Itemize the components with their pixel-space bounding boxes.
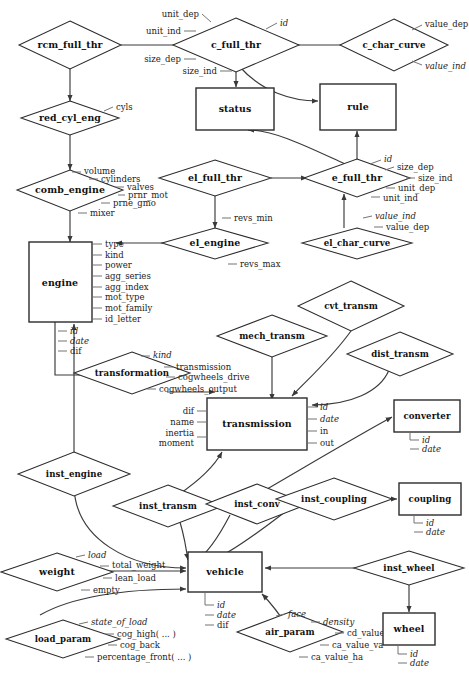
entity-label-rule: rule	[347, 101, 369, 112]
attr-mixer: mixer	[90, 208, 116, 218]
attr-in: in	[320, 426, 329, 436]
edge-efullthr-to-status	[248, 130, 345, 164]
attr-id-engine: id	[70, 326, 79, 336]
relationship-dist-transm[interactable]: dist_transm	[347, 332, 453, 376]
attr-value-dep: value_dep	[424, 19, 469, 30]
relationship-label-dist-transm: dist_transm	[371, 349, 429, 359]
attr-ca-value-va: ca_value_va	[332, 640, 383, 651]
relationship-label-red-cyl-eng: red_cyl_eng	[39, 112, 101, 123]
relationship-label-air-param: air_param	[265, 627, 314, 637]
attr-revs-min: revs_min	[234, 213, 273, 224]
relationship-label-rcm-full-thr: rcm_full_thr	[37, 39, 103, 50]
relationship-label-load-param: load_param	[35, 634, 92, 644]
attributes-vehicle: id date dif	[205, 593, 236, 630]
attr-unit-ind-e: unit_ind	[383, 193, 419, 204]
entity-rule[interactable]: rule	[320, 84, 396, 130]
entity-label-wheel: wheel	[393, 623, 425, 634]
attr-out: out	[320, 438, 335, 448]
attr-cogwheels-drive: cogwheels_drive	[178, 372, 250, 383]
attr-mot-type: mot_type	[105, 292, 145, 303]
attr-cd-value: cd_value	[347, 628, 385, 639]
attr-date-engine: date	[70, 336, 89, 346]
attr-agg-series: agg_series	[105, 271, 151, 282]
attributes-coupling: id date	[414, 516, 445, 537]
attr-date-converter: date	[422, 444, 441, 454]
relationship-label-inst-transm: inst_transm	[139, 501, 197, 511]
relationship-label-c-full-thr: c_full_thr	[211, 39, 262, 50]
relationship-label-transformation: transformation	[95, 368, 170, 378]
attr-inertia: inertia	[166, 428, 195, 438]
attr-mot-family: mot_family	[105, 303, 153, 314]
relationship-inst-transm[interactable]: inst_transm	[113, 485, 223, 527]
attr-value-dep-el: value_dep	[385, 222, 430, 233]
attributes-red-cyl-eng: cyls	[104, 102, 133, 112]
relationship-label-cvt-transm: cvt_transm	[324, 301, 378, 311]
attr-size-dep: size_dep	[144, 54, 181, 65]
attr-state-of-load: state_of_load	[91, 617, 148, 628]
entity-label-vehicle: vehicle	[205, 566, 244, 577]
edge-insttransm-to-transmission	[178, 452, 222, 495]
relationship-label-inst-wheel: inst_wheel	[383, 563, 435, 573]
attr-id-letter: id_letter	[105, 314, 142, 325]
relationship-mech-transm[interactable]: mech_transm	[217, 315, 327, 357]
attr-unit-dep: unit_dep	[162, 9, 200, 20]
attr-ca-value-ha: ca_value_ha	[311, 652, 363, 663]
attr-prne-gmo: prne_gmo	[113, 198, 156, 209]
attr-dif-vehicle: dif	[217, 620, 229, 630]
attr-dif-transmission: dif	[183, 406, 195, 416]
relationship-label-comb-engine: comb_engine	[35, 184, 105, 195]
attributes-converter: id date	[410, 433, 441, 454]
entity-transmission[interactable]: transmission	[207, 398, 307, 450]
attr-type: type	[105, 239, 124, 249]
relationship-rcm-full-thr[interactable]: rcm_full_thr	[19, 21, 121, 69]
attr-total-weight: total_weight	[112, 560, 166, 571]
attr-transmission: transmission	[176, 362, 232, 372]
relationship-inst-wheel[interactable]: inst_wheel	[354, 551, 464, 585]
relationship-el-char-curve[interactable]: el_char_curve	[302, 228, 412, 259]
attr-id-transmission: id	[320, 402, 329, 412]
attr-id-vehicle: id	[217, 600, 226, 610]
attr-moment: moment	[159, 438, 195, 448]
entity-coupling[interactable]: coupling	[399, 483, 461, 515]
relationship-label-inst-conv: inst_conv	[234, 499, 281, 509]
attr-value-ind: value_ind	[425, 61, 467, 72]
relationship-label-mech-transm: mech_transm	[239, 331, 305, 341]
attr-date-wheel: date	[410, 658, 429, 668]
attr-revs-max: revs_max	[240, 259, 281, 270]
attr-empty: empty	[93, 585, 120, 595]
attributes-el-char-curve: value_ind value_dep	[363, 211, 430, 233]
attr-size-ind: size_ind	[183, 66, 218, 77]
attr-cog-high: cog_high( ... )	[117, 629, 176, 640]
attr-cyls: cyls	[116, 102, 133, 112]
attr-power: power	[105, 260, 133, 270]
relationship-cvt-transm[interactable]: cvt_transm	[298, 281, 404, 331]
relationship-inst-engine[interactable]: inst_engine	[18, 452, 130, 496]
attr-unit-ind: unit_ind	[146, 26, 182, 37]
relationship-e-full-thr[interactable]: e_full_thr	[304, 159, 410, 197]
entity-converter[interactable]: converter	[394, 400, 460, 432]
entity-label-status: status	[219, 103, 252, 114]
attr-size-dep-e: size_dep	[397, 162, 434, 173]
relationship-red-cyl-eng[interactable]: red_cyl_eng	[21, 101, 119, 135]
attr-kind-transformation: kind	[153, 350, 172, 360]
relationship-inst-coupling[interactable]: inst_coupling	[276, 478, 392, 520]
edge-disttransm-to-transmission	[312, 370, 389, 405]
attr-id-efullthr: id	[384, 154, 393, 164]
attr-cog-back: cog_back	[120, 640, 161, 651]
entity-label-coupling: coupling	[409, 494, 452, 504]
relationship-el-engine[interactable]: el_engine	[162, 228, 268, 259]
entity-vehicle[interactable]: vehicle	[188, 552, 262, 592]
attr-id-cfullthr: id	[280, 18, 289, 28]
attr-density: density	[323, 617, 354, 627]
relationship-el-full-thr[interactable]: el_full_thr	[159, 160, 271, 196]
relationship-label-el-engine: el_engine	[190, 237, 241, 248]
relationship-label-weight: weight	[38, 566, 75, 577]
attr-face: face	[287, 609, 306, 619]
entity-label-transmission: transmission	[222, 418, 291, 429]
entity-status[interactable]: status	[196, 88, 274, 130]
attr-lean-load: lean_load	[115, 573, 156, 584]
entity-engine[interactable]: engine	[29, 242, 92, 322]
entity-wheel[interactable]: wheel	[383, 613, 435, 645]
attr-value-ind-el: value_ind	[375, 211, 417, 222]
relationship-label-inst-engine: inst_engine	[46, 469, 103, 479]
